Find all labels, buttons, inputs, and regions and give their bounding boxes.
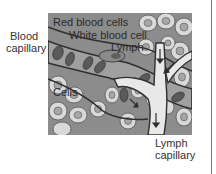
label-lymph-capillary-line2: capillary [155,149,195,161]
label-blood-capillary-line2: capillary [6,42,46,54]
diagram-figure: Red blood cells White blood cell Lymph C… [48,13,192,135]
label-white-blood-cell: White blood cell [69,29,147,41]
label-lymph: Lymph [111,41,144,53]
label-lymph-capillary-line1: Lymph [155,137,188,149]
page-border-line [211,0,212,174]
label-red-blood-cells: Red blood cells [53,16,128,28]
label-blood-capillary-line1: Blood [10,30,38,42]
label-cells: Cells [53,86,77,98]
